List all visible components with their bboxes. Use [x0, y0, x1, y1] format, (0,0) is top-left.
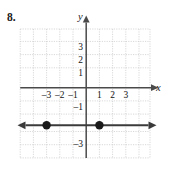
x-tick-label-neg2: –2: [54, 90, 66, 100]
coordinate-plane-plot: [0, 0, 174, 173]
x-tick-label-2: 2: [107, 90, 119, 100]
figure-container: 8.: [0, 0, 174, 173]
x-tick-label-neg1: –1: [67, 90, 79, 100]
y-tick-label-1: 1: [72, 68, 83, 78]
y-axis-label: y: [78, 11, 83, 22]
data-point-marker: [95, 121, 103, 129]
y-tick-label-neg3: –3: [68, 139, 83, 149]
data-point-marker: [42, 121, 50, 129]
x-tick-label-3: 3: [120, 90, 132, 100]
x-axis-label: x: [156, 82, 161, 93]
y-tick-label-2: 2: [72, 55, 83, 65]
y-axis: [83, 16, 90, 159]
y-tick-label-neg1: –1: [68, 102, 83, 112]
x-tick-label-1: 1: [93, 90, 105, 100]
y-tick-label-3: 3: [72, 42, 83, 52]
plotted-line-y-equals-negative-2: [18, 121, 157, 129]
x-tick-label-neg3: –3: [41, 90, 53, 100]
